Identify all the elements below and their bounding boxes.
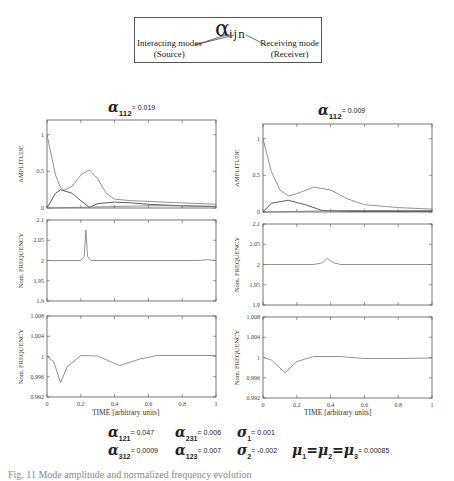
param-sub: 2 [247, 453, 251, 460]
param-value: = 0.007 [197, 447, 221, 454]
svg-text:0.996: 0.996 [247, 375, 261, 381]
svg-text:2.1: 2.1 [253, 221, 261, 227]
svg-text:0.5: 0.5 [253, 172, 261, 178]
svg-text:1.004: 1.004 [247, 334, 261, 340]
svg-text:2.1: 2.1 [37, 217, 45, 223]
svg-text:0: 0 [262, 402, 265, 408]
svg-text:Nom. FREQUENCY: Nom. FREQUENCY [17, 233, 24, 289]
svg-text:0.2: 0.2 [77, 401, 85, 407]
svg-text:1.9: 1.9 [253, 302, 261, 308]
svg-text:Nom. FREQUENCY: Nom. FREQUENCY [17, 329, 24, 385]
svg-text:2.05: 2.05 [250, 241, 261, 247]
svg-text:0.2: 0.2 [293, 402, 301, 408]
svg-text:0.8: 0.8 [178, 401, 186, 407]
svg-text:AMPLITUDE: AMPLITUDE [17, 145, 24, 183]
svg-text:0: 0 [257, 209, 260, 215]
left-nom-frequency-plot: 00.20.40.60.810.9920.99611.0041.008Nom. … [17, 313, 218, 407]
svg-text:1.95: 1.95 [250, 282, 261, 288]
svg-text:1.9: 1.9 [37, 298, 45, 304]
svg-text:1: 1 [257, 355, 260, 361]
param-symbol: α [108, 442, 119, 458]
svg-text:1.95: 1.95 [34, 278, 45, 284]
param-sub: 231 [186, 435, 198, 442]
svg-text:1: 1 [41, 354, 44, 360]
svg-text:0.4: 0.4 [111, 401, 119, 407]
svg-text:1.008: 1.008 [247, 314, 261, 320]
svg-text:Nom. FREQUENCY: Nom. FREQUENCY [233, 237, 240, 293]
param-symbol: μ [292, 442, 302, 458]
svg-text:1: 1 [257, 136, 260, 142]
left-xlabel: TIME [arbitrary units] [92, 408, 159, 417]
param-sub: 121 [119, 435, 131, 442]
param-value: = 0.047 [130, 429, 154, 436]
param-value: = -0.002 [251, 447, 277, 454]
param-symbol: σ [237, 424, 247, 440]
param-alpha312: α312= 0.0009 [108, 442, 158, 460]
svg-text:0: 0 [41, 205, 44, 211]
svg-text:2.05: 2.05 [34, 237, 45, 243]
figure-caption: Fig. 11 Mode amplitude and normalized fr… [8, 469, 251, 480]
param-symbol: α [175, 442, 186, 458]
svg-text:1: 1 [431, 402, 434, 408]
param-sigma2: σ2= -0.002 [237, 442, 277, 460]
left-frequency-plot: 1.91.9522.052.1Nom. FREQUENCY [17, 217, 216, 304]
param-symbol: σ [237, 442, 247, 458]
param-mu: μ1=μ2=μ3= 0.00085 [292, 442, 389, 460]
svg-text:1: 1 [41, 132, 44, 138]
param-alpha121: α121= 0.047 [108, 424, 154, 442]
left-amplitude-plot: 00.51AMPLITUDE [17, 120, 216, 211]
svg-text:Nom. FREQUENCY: Nom. FREQUENCY [233, 330, 240, 386]
plots-canvas: 00.51AMPLITUDE1.91.9522.052.1Nom. FREQUE… [0, 0, 454, 481]
svg-text:1: 1 [215, 401, 218, 407]
param-alpha231: α231= 0.006 [175, 424, 221, 442]
param-sub: 1 [247, 435, 251, 442]
svg-text:0.8: 0.8 [394, 402, 402, 408]
param-symbol: α [175, 424, 186, 440]
param-value: = 0.0009 [130, 447, 157, 454]
param-value: = 0.006 [197, 429, 221, 436]
right-nom-frequency-plot: 00.20.40.60.810.9920.99611.0041.008Nom. … [233, 314, 434, 408]
svg-text:0.5: 0.5 [37, 168, 45, 174]
right-amplitude-plot: 00.51AMPLITUDE [233, 124, 432, 215]
param-sigma1: σ1= 0.001 [237, 424, 275, 442]
svg-text:2: 2 [257, 262, 260, 268]
svg-text:0.992: 0.992 [247, 395, 261, 401]
param-sub: 312 [119, 453, 131, 460]
param-symbol: α [108, 424, 119, 440]
svg-text:AMPLITUDE: AMPLITUDE [233, 149, 240, 187]
svg-text:0.6: 0.6 [145, 401, 153, 407]
right-xlabel: TIME [arbitrary units] [304, 408, 371, 417]
svg-text:0.992: 0.992 [31, 394, 45, 400]
param-alpha123: α123= 0.007 [175, 442, 221, 460]
right-frequency-plot: 1.91.9522.052.1Nom. FREQUENCY [233, 221, 432, 308]
svg-text:0.996: 0.996 [31, 374, 45, 380]
svg-text:2: 2 [41, 258, 44, 264]
param-sub: 123 [186, 453, 198, 460]
svg-text:0: 0 [46, 401, 49, 407]
param-value: = 0.001 [251, 429, 275, 436]
svg-text:1.004: 1.004 [31, 333, 45, 339]
svg-text:1.008: 1.008 [31, 313, 45, 319]
param-value: = 0.00085 [358, 447, 389, 454]
